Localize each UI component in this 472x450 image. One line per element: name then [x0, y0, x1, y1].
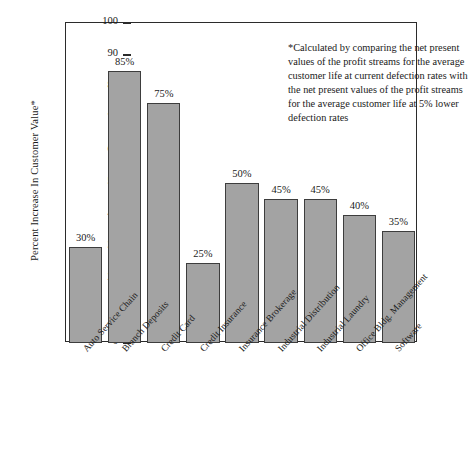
bar-value-label: 50% — [217, 168, 266, 179]
y-axis-title: Percent Increase In Customer Value* — [29, 41, 40, 321]
bar-value-label: 30% — [61, 232, 110, 243]
bar-value-label: 25% — [178, 248, 227, 259]
y-tick-label: 100 — [66, 15, 118, 26]
footnote-annotation: *Calculated by comparing the net present… — [288, 41, 472, 126]
bar-value-label: 75% — [139, 88, 188, 99]
y-tick-mark — [123, 22, 131, 24]
bar-value-label: 45% — [296, 184, 345, 195]
bar-value-label: 35% — [374, 216, 423, 227]
bar-value-label: 85% — [100, 56, 149, 67]
bar-value-label: 40% — [335, 200, 384, 211]
